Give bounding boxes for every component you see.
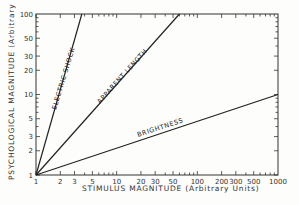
y-tick-label: 10 — [24, 91, 33, 99]
x-tick-label: 1000 — [269, 178, 287, 186]
x-axis-ticks — [36, 14, 274, 175]
apparent-length-label: APPARENT LENGTH — [96, 47, 150, 105]
y-tick-label: 3 — [29, 133, 33, 141]
x-tick-label: 2 — [58, 178, 62, 186]
electric-shock-label: ELECTRIC SHOCK — [50, 46, 77, 110]
x-tick-label: 3 — [72, 178, 76, 186]
y-tick-label: 20 — [24, 67, 33, 75]
series-lines — [36, 14, 278, 175]
y-tick-label: 1 — [29, 172, 33, 180]
power-law-chart: 1235102030501002003005001000 12351020305… — [0, 0, 299, 205]
y-tick-label: 100 — [20, 11, 33, 19]
y-tick-label: 30 — [24, 53, 33, 61]
y-axis-ticks — [36, 18, 278, 175]
x-axis-title: STIMULUS MAGNITUDE (Arbitrary Units) — [82, 184, 259, 193]
y-axis-tick-labels: 123510203050100 — [20, 11, 33, 180]
y-tick-label: 5 — [29, 115, 33, 123]
y-tick-label: 50 — [24, 35, 33, 43]
y-axis-title: PSYCHOLOGICAL MAGNITUDE (Arbitrary Units… — [7, 0, 16, 180]
plot-frame — [36, 14, 278, 175]
x-tick-label: 1 — [34, 178, 38, 186]
y-tick-label: 2 — [29, 147, 33, 155]
